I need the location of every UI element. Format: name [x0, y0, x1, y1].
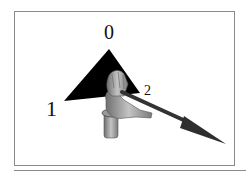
- vertex-label-1: 1: [46, 98, 57, 120]
- vertex-label-0: 0: [104, 22, 114, 42]
- vertex-label-2: 2: [144, 84, 151, 98]
- diagram-canvas: [0, 0, 246, 176]
- arrow-icon: [122, 92, 226, 144]
